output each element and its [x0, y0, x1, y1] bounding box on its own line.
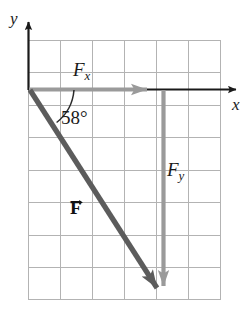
- force-vector-arrow: [30, 90, 157, 288]
- grid-lines: [28, 40, 221, 300]
- y-axis-label: y: [10, 10, 18, 27]
- fy-label-subscript: y: [179, 168, 185, 183]
- diagram-canvas: [0, 0, 252, 314]
- force-vector-label: F: [70, 198, 82, 217]
- fy-component-label: Fy: [167, 160, 184, 183]
- angle-label: 58°: [61, 108, 88, 127]
- fy-label-base: F: [167, 159, 179, 180]
- force-vector-diagram: y x Fx Fy F 58°: [0, 0, 252, 314]
- fx-component-label: Fx: [73, 60, 90, 83]
- x-axis-label: x: [232, 96, 240, 113]
- fx-label-subscript: x: [85, 68, 91, 83]
- coordinate-axes: [28, 22, 236, 90]
- fx-label-base: F: [73, 59, 85, 80]
- vector-arrow-icon: [70, 198, 83, 205]
